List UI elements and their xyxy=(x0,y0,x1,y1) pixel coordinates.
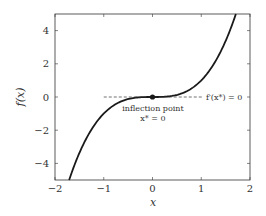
y-tick-label: 4 xyxy=(43,25,49,36)
x-tick-label: 2 xyxy=(247,183,253,194)
y-tick-label: −2 xyxy=(34,125,49,136)
x-tick-label: −1 xyxy=(96,183,111,194)
x-axis-label: x xyxy=(150,196,157,209)
tangent-annotation: f′(x*) = 0 xyxy=(206,93,242,102)
inflection-value-annotation: x* = 0 xyxy=(140,114,165,123)
chart: −2−1012−4−2024 f′(x*) = 0 inflection poi… xyxy=(0,0,266,216)
y-tick-label: 2 xyxy=(43,58,49,69)
inflection-annotation: inflection point xyxy=(122,104,184,113)
x-tick-label: −2 xyxy=(48,183,63,194)
points xyxy=(150,94,155,99)
x-tick-label: 1 xyxy=(198,183,204,194)
inflection-point-marker xyxy=(150,94,155,99)
x-tick-label: 0 xyxy=(149,183,155,194)
y-axis-label: f(x) xyxy=(14,88,27,108)
y-tick-label: −4 xyxy=(34,158,49,169)
y-tick-label: 0 xyxy=(43,92,49,103)
